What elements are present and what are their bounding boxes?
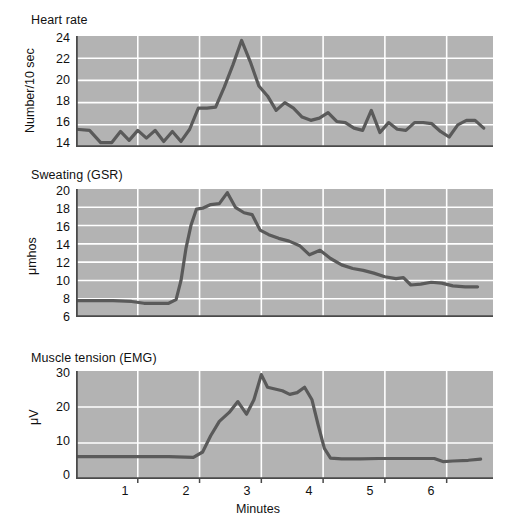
plot-area-emg [76, 371, 493, 485]
panel-title-heart-rate: Heart rate [31, 13, 88, 27]
y-tick-heart-rate-0: 24 [40, 32, 70, 44]
y-tick-heart-rate-5: 14 [40, 137, 70, 149]
x-tick-5: 5 [354, 485, 386, 497]
panel-title-emg: Muscle tension (EMG) [31, 351, 157, 365]
y-axis-label-heart-rate: Number/10 sec [24, 48, 37, 133]
y-tick-gsr-1: 18 [40, 203, 70, 215]
plot-area-heart-rate [76, 36, 493, 147]
panel-emg: Muscle tension (EMG) μV 30 20 10 0 1 2 3… [0, 345, 516, 521]
panel-heart-rate: Heart rate Number/10 sec 24 22 20 18 16 … [0, 0, 516, 150]
plot-area-gsr [76, 189, 493, 317]
y-tick-gsr-0: 20 [40, 185, 70, 197]
y-tick-gsr-3: 14 [40, 239, 70, 251]
y-tick-emg-3: 0 [40, 469, 70, 481]
y-tick-emg-2: 10 [40, 435, 70, 447]
biofeedback-figure: Heart rate Number/10 sec 24 22 20 18 16 … [0, 0, 516, 521]
y-tick-gsr-2: 16 [40, 221, 70, 233]
x-axis-label: Minutes [208, 502, 308, 516]
panel-title-gsr: Sweating (GSR) [31, 168, 123, 182]
x-tick-3: 3 [231, 485, 263, 497]
y-tick-gsr-6: 8 [40, 293, 70, 305]
y-tick-heart-rate-1: 22 [40, 53, 70, 65]
x-tick-6: 6 [415, 485, 447, 497]
y-tick-emg-0: 30 [40, 367, 70, 379]
y-tick-heart-rate-3: 18 [40, 95, 70, 107]
x-tick-1: 1 [109, 485, 141, 497]
y-tick-gsr-4: 12 [40, 257, 70, 269]
x-tick-4: 4 [293, 485, 325, 497]
x-tick-2: 2 [170, 485, 202, 497]
y-tick-heart-rate-4: 16 [40, 116, 70, 128]
y-tick-emg-1: 20 [40, 401, 70, 413]
y-tick-heart-rate-2: 20 [40, 74, 70, 86]
panel-gsr: Sweating (GSR) μmhos 20 18 16 14 12 10 8… [0, 160, 516, 330]
y-tick-gsr-5: 10 [40, 275, 70, 287]
y-tick-gsr-7: 6 [40, 311, 70, 323]
y-axis-label-gsr: μmhos [26, 237, 39, 275]
